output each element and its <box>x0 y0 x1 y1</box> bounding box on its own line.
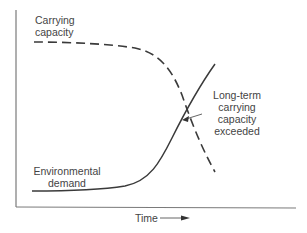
x-axis <box>16 207 296 208</box>
carrying-capacity-label: Carrying capacity <box>35 14 75 38</box>
capacity-exceeded-annotation: Long-term carrying capacity exceeded <box>204 89 270 137</box>
time-arrowhead-icon <box>181 216 190 221</box>
annotation-line4: exceeded <box>204 125 270 137</box>
environmental-demand-label-line1: Environmental <box>33 165 101 177</box>
x-axis-label: Time <box>135 212 158 224</box>
environmental-demand-label: Environmental demand <box>33 165 101 189</box>
carrying-capacity-label-line2: capacity <box>35 26 75 38</box>
environmental-demand-label-line2: demand <box>33 177 101 189</box>
annotation-line2: carrying <box>204 101 270 113</box>
carrying-capacity-label-line1: Carrying <box>35 14 75 26</box>
annotation-line3: capacity <box>204 113 270 125</box>
annotation-line1: Long-term <box>204 89 270 101</box>
